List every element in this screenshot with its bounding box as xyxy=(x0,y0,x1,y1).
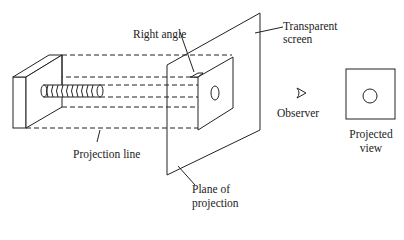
projection-line-leader xyxy=(97,130,100,142)
projected-face xyxy=(190,57,233,130)
right-angle-label: Right angle xyxy=(133,28,186,41)
projection-line-label: Projection line xyxy=(73,148,140,161)
transparent-screen-label-2: screen xyxy=(283,33,312,46)
projected-view-label-2: view xyxy=(345,142,397,155)
observer-eye-icon xyxy=(297,88,306,98)
transparent-screen-leader xyxy=(255,27,283,33)
plane-of-projection-label-1: Plane of xyxy=(192,183,230,196)
observer-label: Observer xyxy=(277,107,319,120)
plane-of-projection-label-2: projection xyxy=(192,197,239,210)
projected-view-label-1: Projected xyxy=(345,128,397,141)
transparent-screen-label-1: Transparent xyxy=(283,20,338,33)
projected-view-box xyxy=(346,69,395,119)
